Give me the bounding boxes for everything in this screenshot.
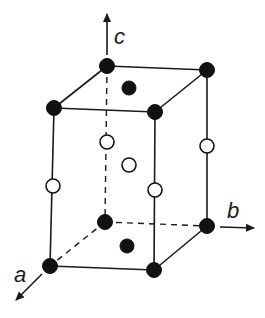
- open-atom: [148, 183, 162, 197]
- a-axis-label: a: [14, 262, 26, 287]
- c-axis: c: [107, 14, 125, 55]
- open-atom: [100, 135, 114, 149]
- open-atom: [46, 179, 60, 193]
- filled-atom: [47, 101, 62, 116]
- filled-atom: [200, 63, 215, 78]
- filled-atom: [200, 219, 215, 234]
- unit-cell-diagram: c b a: [0, 0, 265, 318]
- filled-atom: [43, 259, 58, 274]
- filled-atom: [122, 81, 136, 95]
- filled-atom: [100, 59, 115, 74]
- filled-atom: [147, 263, 162, 278]
- open-atom: [122, 158, 136, 172]
- filled-atom: [148, 105, 163, 120]
- b-axis-label: b: [227, 198, 239, 223]
- b-axis: b: [220, 198, 254, 228]
- filled-atom: [98, 215, 113, 230]
- a-axis: a: [14, 262, 42, 300]
- open-atom: [200, 139, 214, 153]
- filled-atom: [120, 239, 134, 253]
- c-axis-label: c: [114, 24, 125, 49]
- open-atoms: [46, 135, 214, 197]
